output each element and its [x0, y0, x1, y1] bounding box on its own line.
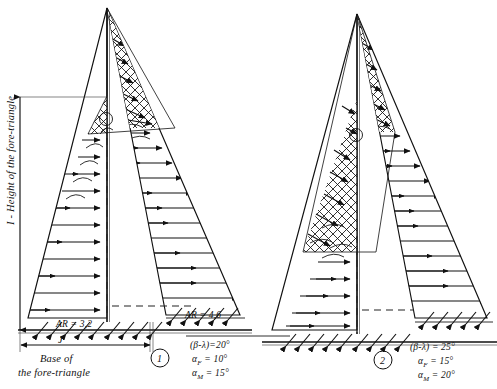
- panel-1-annotation-line-2: αF = 10°: [192, 354, 227, 367]
- panel-1-jib-ar-label: AR = 3,2: [55, 319, 92, 329]
- height-dimension-label: I - Height of the fore-triangle: [5, 96, 16, 226]
- panel-1-main-ar-label: AR = 4,6: [184, 310, 221, 320]
- panel-1-annotation-line-1: (β-λ)=20°: [190, 340, 230, 351]
- panel-2-annotation-line-2: αF = 15°: [418, 356, 453, 369]
- panel-1-jib-sail: [28, 8, 107, 318]
- panel-2-annotation-line-1: (β-λ) = 25°: [410, 342, 455, 353]
- panel-1-base-caption-line1: Base of: [40, 353, 74, 364]
- panel-2-mainsail: [357, 14, 487, 318]
- diagram-canvas: AR = 3,2 AR = 4,6 J Base of the fore-tri…: [0, 0, 497, 389]
- panel-2: 2 (β-λ) = 25° αF = 15° αM = 20°: [262, 14, 497, 383]
- panel-1-number-label: 1: [157, 353, 162, 364]
- sail-plan-diagram: AR = 3,2 AR = 4,6 J Base of the fore-tri…: [0, 0, 497, 389]
- panel-1: AR = 3,2 AR = 4,6 J Base of the fore-tri…: [18, 8, 290, 381]
- panel-2-annotation-line-3: αM = 20°: [418, 370, 455, 383]
- panel-1-base-symbol: J: [58, 334, 64, 345]
- panel-2-number-label: 2: [380, 355, 385, 366]
- panel-1-base-caption-line2: the fore-triangle: [18, 367, 90, 378]
- panel-2-ground-hatch: [286, 334, 410, 346]
- panel-1-annotation-line-3: αM = 15°: [192, 368, 229, 381]
